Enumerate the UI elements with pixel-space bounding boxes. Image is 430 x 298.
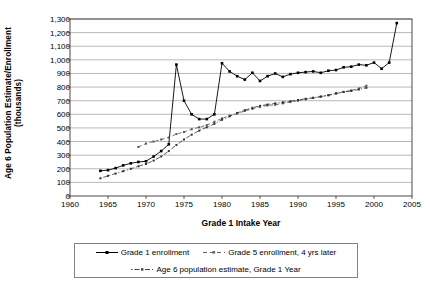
data-point: [282, 101, 284, 103]
data-point: [282, 76, 285, 79]
data-point: [191, 128, 193, 130]
data-point: [190, 113, 193, 116]
data-point: [114, 167, 117, 170]
data-point: [396, 22, 399, 25]
data-point: [358, 89, 360, 91]
series-line: [100, 88, 366, 179]
legend-swatch-solid: [96, 248, 118, 257]
data-point: [107, 169, 110, 172]
data-point: [198, 130, 200, 132]
data-point: [213, 121, 215, 123]
legend-swatch-dashed: [203, 248, 225, 257]
data-point: [297, 99, 299, 101]
legend-swatch-dashdot: [131, 265, 153, 274]
series-0: [99, 22, 398, 172]
data-point: [343, 91, 345, 93]
data-point: [304, 71, 307, 74]
data-point: [320, 71, 323, 74]
data-point: [289, 73, 292, 76]
data-point: [191, 134, 193, 136]
data-point: [365, 87, 367, 89]
data-point: [213, 113, 216, 116]
data-point: [380, 67, 383, 70]
legend-item-grade1[interactable]: Grade 1 enrollment: [96, 248, 189, 257]
data-point: [145, 143, 147, 145]
data-point: [168, 143, 171, 146]
data-point: [365, 85, 367, 87]
data-point: [160, 156, 162, 158]
data-point: [168, 150, 170, 152]
data-point: [206, 118, 209, 121]
data-point: [99, 170, 102, 173]
data-point: [244, 78, 247, 81]
data-point: [358, 63, 361, 66]
chart-legend: Grade 1 enrollment Grade 5 enrollment, 4…: [74, 243, 358, 278]
data-point: [221, 62, 224, 65]
data-point: [175, 144, 177, 146]
data-point: [373, 61, 376, 64]
data-point: [335, 93, 337, 95]
data-point: [327, 94, 329, 96]
data-point: [206, 124, 208, 126]
data-point: [320, 96, 322, 98]
plot-frame: [70, 19, 412, 196]
legend-label-age6: Age 6 population estimate, Grade 1 Year: [156, 265, 300, 274]
data-point: [365, 64, 368, 67]
data-point: [183, 138, 185, 140]
data-point: [206, 126, 208, 128]
data-point: [137, 161, 140, 164]
data-point: [229, 115, 231, 117]
data-point: [251, 71, 254, 74]
data-point: [274, 102, 276, 104]
series-line: [138, 86, 366, 147]
legend-label-grade1: Grade 1 enrollment: [121, 248, 189, 257]
data-point: [130, 168, 132, 170]
legend-item-grade5[interactable]: Grade 5 enrollment, 4 yrs later: [203, 248, 336, 257]
data-point: [267, 104, 269, 106]
data-point: [236, 112, 238, 114]
series-line: [100, 23, 396, 171]
data-point: [198, 126, 200, 128]
data-point: [274, 72, 277, 75]
data-point: [130, 162, 133, 165]
data-point: [259, 80, 262, 83]
data-point: [145, 160, 148, 163]
data-point: [213, 123, 215, 125]
data-point: [175, 63, 178, 66]
data-point: [350, 65, 353, 68]
legend-label-grade5: Grade 5 enrollment, 4 yrs later: [228, 248, 336, 257]
chart-figure: Age 6 Population Estimate/Enrollment (th…: [0, 0, 430, 298]
data-point: [153, 141, 155, 143]
data-point: [99, 177, 101, 179]
data-point: [305, 98, 307, 100]
data-point: [183, 99, 186, 102]
data-point: [327, 69, 330, 72]
data-point: [297, 71, 300, 74]
data-point: [236, 75, 239, 78]
data-point: [388, 61, 391, 64]
legend-item-age6[interactable]: Age 6 population estimate, Grade 1 Year: [131, 265, 300, 274]
data-point: [228, 70, 231, 73]
data-point: [244, 109, 246, 111]
data-point: [266, 75, 269, 78]
data-point: [152, 155, 155, 158]
data-point: [342, 66, 345, 69]
data-point: [175, 133, 177, 135]
data-point: [107, 175, 109, 177]
data-point: [251, 107, 253, 109]
data-point: [137, 165, 139, 167]
data-point: [350, 90, 352, 92]
data-point: [160, 150, 163, 153]
data-point: [312, 97, 314, 99]
data-point: [137, 146, 139, 148]
data-point: [168, 136, 170, 138]
data-point: [312, 70, 315, 73]
data-point: [160, 138, 162, 140]
data-point: [122, 164, 125, 167]
data-point: [198, 118, 201, 121]
data-point: [221, 119, 223, 121]
data-point: [122, 170, 124, 172]
data-point: [145, 163, 147, 165]
data-point: [115, 173, 117, 175]
data-point: [183, 131, 185, 133]
